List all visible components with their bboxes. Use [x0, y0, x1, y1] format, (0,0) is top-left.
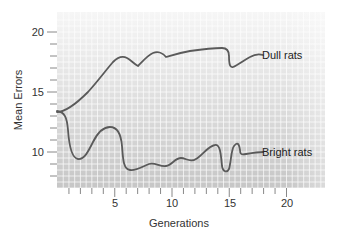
bright-rats-label: Bright rats	[262, 146, 313, 158]
y-axis-ticks	[47, 32, 57, 176]
plot-fade	[57, 12, 325, 188]
y-tick-label-10: 10	[32, 146, 44, 158]
y-tick-label-20: 20	[32, 26, 44, 38]
x-tick-label-20: 20	[281, 197, 293, 209]
dull-rats-label: Dull rats	[262, 49, 303, 61]
line-chart: 20 15 10 5 10 15 20 Generations Mean Err…	[0, 0, 340, 239]
x-axis-ticks	[69, 188, 287, 197]
y-tick-label-15: 15	[32, 86, 44, 98]
x-tick-label-10: 10	[166, 197, 178, 209]
x-axis-title: Generations	[149, 217, 209, 229]
y-axis-title: Mean Errors	[12, 69, 24, 130]
x-tick-label-5: 5	[112, 197, 118, 209]
x-tick-label-15: 15	[224, 197, 236, 209]
